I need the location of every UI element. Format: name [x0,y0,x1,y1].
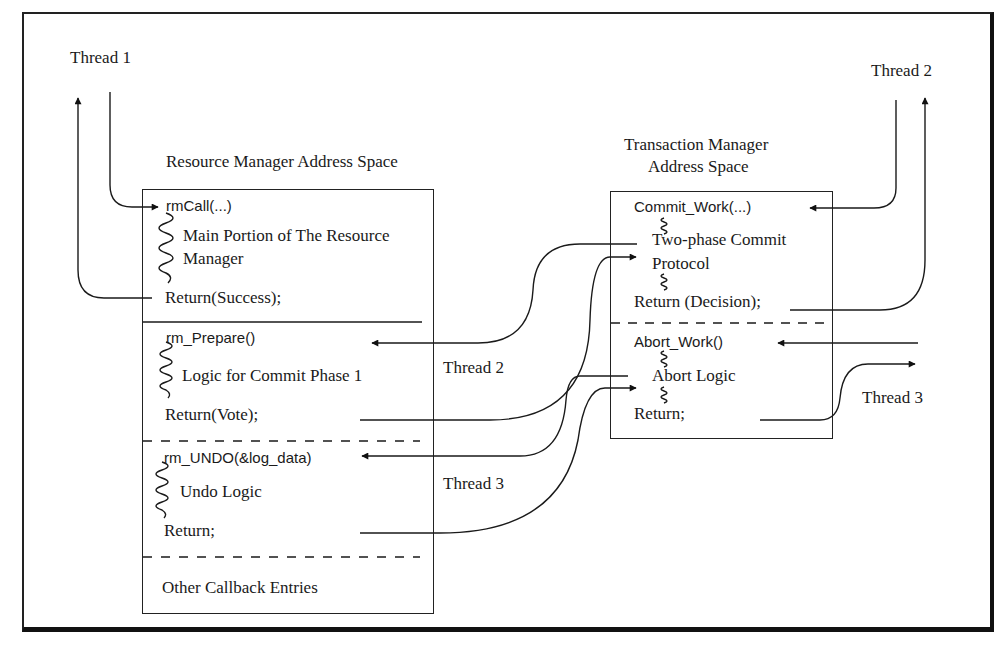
thread2-call-arrow [810,100,896,208]
commit-to-prepare-arrow [372,244,637,343]
vote-to-protocol-arrow [360,257,636,420]
rm-main-squiggle [159,213,173,283]
undo-return-to-abort-arrow [360,388,636,533]
thread1-return-arrow [78,98,152,298]
tm-abort-squiggle-1 [661,351,667,367]
rm-prepare-squiggle [160,342,172,398]
thread3-return-arrow [760,364,915,420]
abort-to-undo-arrow [362,376,628,456]
thread1-call-arrow [110,92,158,207]
connector-lines [0,0,1008,668]
thread2-return-arrow [790,98,925,310]
rm-undo-squiggle [156,462,168,518]
tm-commit-squiggle-1 [661,218,667,234]
tm-abort-squiggle-2 [661,387,667,403]
tm-commit-squiggle-2 [661,274,667,290]
